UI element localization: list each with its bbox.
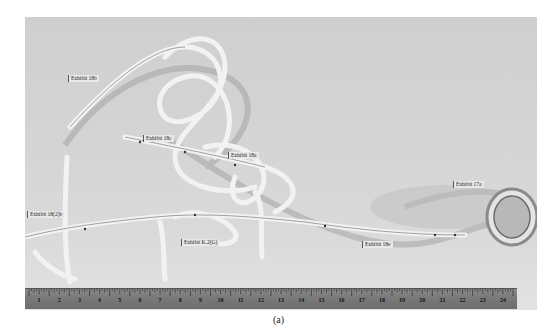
ruler-number: 8 xyxy=(179,297,182,303)
ruler-number: 22 xyxy=(460,297,466,303)
ruler-number: 24 xyxy=(500,297,506,303)
ruler-number: 23 xyxy=(480,297,486,303)
ruler-number: 18 xyxy=(379,297,385,303)
ruler-number: 15 xyxy=(318,297,324,303)
ruler-number: 6 xyxy=(138,297,141,303)
ruler-number: 2 xyxy=(58,297,61,303)
exhibit-18-2-b-label: Exhibit 18(2)b xyxy=(27,211,64,218)
exhibit-18c-label: Exhibit 18c xyxy=(143,135,174,142)
evidence-photograph: Exhibit 18b Exhibit 18c Exhibit 18a Exhi… xyxy=(25,17,537,310)
measurement-ruler: 123456789101112131415161718192021222324 xyxy=(25,288,517,309)
exhibit-18b-label: Exhibit 18b xyxy=(68,75,99,82)
ruler-number: 12 xyxy=(258,297,264,303)
ruler-number: 4 xyxy=(98,297,101,303)
exhibit-18e-label: Exhibit 18e xyxy=(362,241,393,248)
ruler-number: 14 xyxy=(298,297,304,303)
tape-strands-illustration xyxy=(25,17,537,310)
ruler-number: 7 xyxy=(159,297,162,303)
ruler-number: 11 xyxy=(238,297,244,303)
ruler-number: 3 xyxy=(78,297,81,303)
ruler-number: 17 xyxy=(359,297,365,303)
exhibit-17a-label: Exhibit 17a xyxy=(453,181,484,188)
ruler-number: 16 xyxy=(339,297,345,303)
ruler-number: 1 xyxy=(38,297,41,303)
figure-caption: (a) xyxy=(0,314,557,325)
ruler-number: 20 xyxy=(419,297,425,303)
exhibit-k-2g-label: Exhibit K.2(G) xyxy=(181,239,219,246)
ruler-number: 21 xyxy=(439,297,445,303)
ruler-number: 10 xyxy=(218,297,224,303)
ruler-number: 5 xyxy=(118,297,121,303)
ruler-number: 9 xyxy=(199,297,202,303)
ruler-number: 13 xyxy=(278,297,284,303)
exhibit-18a-label: Exhibit 18a xyxy=(228,152,259,159)
ruler-number: 19 xyxy=(399,297,405,303)
